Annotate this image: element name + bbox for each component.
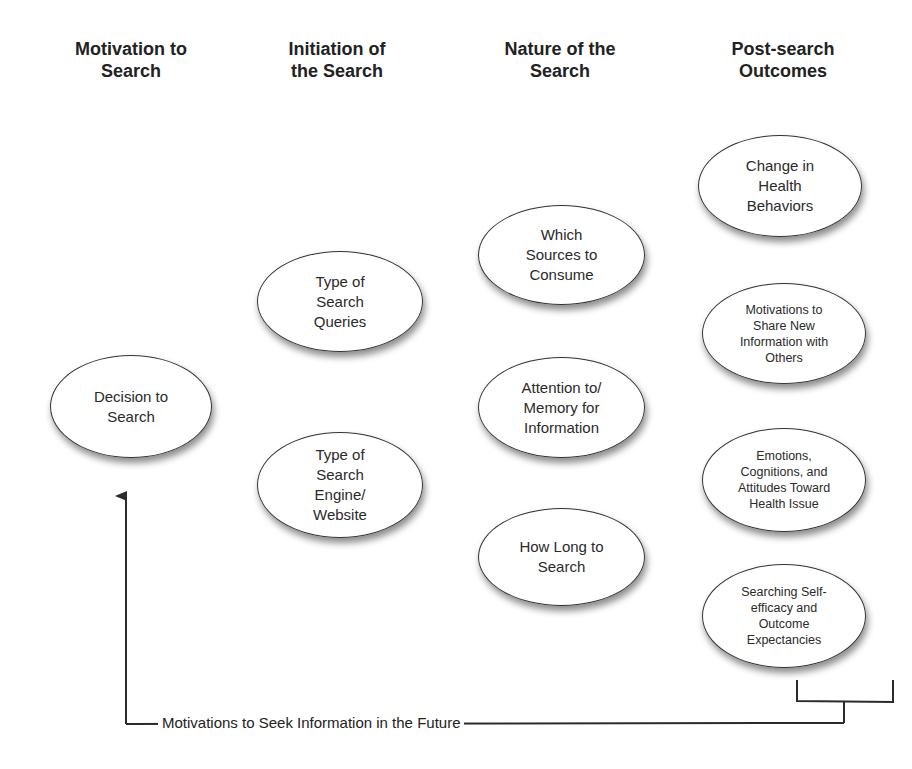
node-type-of-search-engine: Type of Search Engine/ Website <box>257 432 423 538</box>
node-label: Decision to Search <box>94 387 168 427</box>
feedback-label: Motivations to Seek Information in the F… <box>158 714 464 731</box>
node-emotions-cognitions-attitudes: Emotions, Cognitions, and Attitudes Towa… <box>702 428 866 532</box>
node-which-sources: Which Sources to Consume <box>478 205 645 305</box>
node-label: Searching Self- efficacy and Outcome Exp… <box>741 584 826 648</box>
node-label: Change in Health Behaviors <box>746 156 814 216</box>
node-label: Motivations to Share New Information wit… <box>740 302 828 366</box>
node-motivations-to-share: Motivations to Share New Information wit… <box>702 283 866 384</box>
node-label: Attention to/ Memory for Information <box>521 378 601 438</box>
node-label: Type of Search Queries <box>314 272 367 332</box>
node-type-of-search-queries: Type of Search Queries <box>257 251 423 352</box>
outcomes-bracket <box>797 680 893 702</box>
node-label: Emotions, Cognitions, and Attitudes Towa… <box>738 448 830 512</box>
node-label: Which Sources to Consume <box>526 225 598 285</box>
node-attention-memory: Attention to/ Memory for Information <box>478 357 645 458</box>
node-label: Type of Search Engine/ Website <box>313 445 367 525</box>
node-searching-self-efficacy: Searching Self- efficacy and Outcome Exp… <box>702 564 866 668</box>
node-how-long-to-search: How Long to Search <box>478 508 645 606</box>
node-decision-to-search: Decision to Search <box>50 355 212 458</box>
node-label: How Long to Search <box>519 537 603 577</box>
node-change-in-health-behaviors: Change in Health Behaviors <box>698 135 862 237</box>
